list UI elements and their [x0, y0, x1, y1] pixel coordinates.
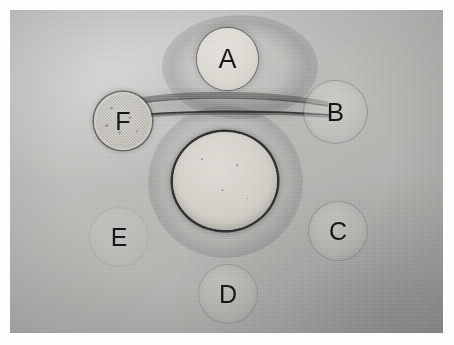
well-a: A	[197, 28, 258, 90]
well-d-label: D	[219, 282, 237, 307]
well-e-label: E	[111, 225, 128, 250]
well-d: D	[199, 265, 257, 323]
immunodiffusion-photograph: A B C D E F	[10, 10, 443, 333]
well-f: F	[94, 92, 152, 150]
well-c: C	[309, 202, 367, 260]
center-well	[171, 129, 280, 232]
screenshot-canvas: A B C D E F	[0, 0, 454, 345]
well-f-label: F	[115, 109, 130, 134]
well-b: B	[304, 81, 367, 143]
well-b-label: B	[327, 99, 344, 125]
well-c-label: C	[329, 219, 347, 244]
well-a-label: A	[218, 46, 236, 73]
well-e: E	[90, 208, 148, 266]
